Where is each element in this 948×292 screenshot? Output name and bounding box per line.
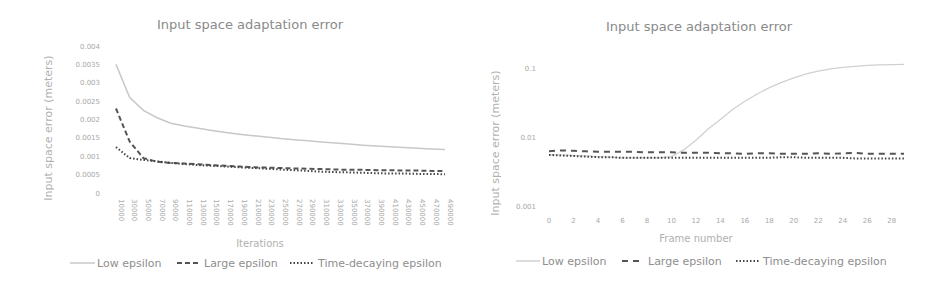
y-tick-label: 0.0005 <box>76 171 101 179</box>
x-tick-label: 6 <box>620 217 625 225</box>
x-tick-label: 28 <box>887 217 896 225</box>
x-axis-label: Frame number <box>659 233 733 244</box>
chart-title: Input space adaptation error <box>157 17 344 32</box>
chart-title: Input space adaptation error <box>606 19 793 34</box>
x-tick-label: 14 <box>716 217 725 225</box>
x-tick-label: 0 <box>547 217 551 225</box>
y-tick-label: 0 <box>96 190 100 198</box>
x-tick-label: 490000 <box>446 199 454 226</box>
chart-right-svg: Input space adaptation error Input space… <box>474 0 948 292</box>
x-tick-label: 2 <box>571 217 575 225</box>
x-tick-label: 22 <box>814 217 823 225</box>
x-tick-label: 110000 <box>185 199 193 226</box>
x-tick-label: 24 <box>838 217 847 225</box>
x-axis-ticks: 1000030000500007000090000110000130000150… <box>117 199 454 226</box>
x-tick-label: 170000 <box>226 199 234 226</box>
x-tick-label: 70000 <box>158 199 166 221</box>
x-tick-label: 270000 <box>295 199 303 226</box>
x-tick-label: 30000 <box>130 199 138 221</box>
chart-left: Input space adaptation error Input space… <box>0 0 474 292</box>
x-tick-label: 150000 <box>212 199 220 226</box>
x-tick-label: 430000 <box>404 199 412 226</box>
x-axis-label: Iterations <box>236 238 284 249</box>
x-tick-label: 90000 <box>171 199 179 221</box>
series-line <box>549 64 904 158</box>
x-tick-label: 8 <box>645 217 649 225</box>
y-axis-ticks: 00.00050.0010.00150.0020.00250.0030.0035… <box>76 43 101 198</box>
legend-label-low: Low epsilon <box>97 257 161 270</box>
x-tick-label: 26 <box>863 217 872 225</box>
series-line <box>549 150 904 153</box>
plot-area <box>116 64 445 174</box>
x-tick-label: 390000 <box>377 199 385 226</box>
y-tick-label: 0.01 <box>520 134 536 142</box>
x-tick-label: 20 <box>789 217 798 225</box>
legend-label-low: Low epsilon <box>542 255 606 268</box>
series-line <box>116 147 445 174</box>
chart-left-svg: Input space adaptation error Input space… <box>0 0 474 292</box>
y-tick-label: 0.003 <box>80 79 100 87</box>
plot-area <box>549 64 904 158</box>
y-axis-label: Input space error (meters) <box>489 70 502 215</box>
x-tick-label: 210000 <box>254 199 262 226</box>
y-tick-label: 0.1 <box>525 65 536 73</box>
y-axis-label: Input space error (meters) <box>42 55 55 200</box>
x-tick-label: 10 <box>667 217 676 225</box>
y-tick-label: 0.0025 <box>76 98 101 106</box>
x-tick-label: 350000 <box>350 199 358 226</box>
x-tick-label: 250000 <box>281 199 289 226</box>
y-axis-ticks: 0.0010.010.1 <box>516 65 536 211</box>
x-tick-label: 450000 <box>418 199 426 226</box>
legend-label-large: Large epsilon <box>204 257 278 270</box>
chart-right: Input space adaptation error Input space… <box>474 0 948 292</box>
x-tick-label: 370000 <box>363 199 371 226</box>
x-tick-label: 190000 <box>240 199 248 226</box>
x-tick-label: 10000 <box>117 199 125 221</box>
legend-label-decay: Time-decaying epsilon <box>762 255 887 268</box>
x-tick-label: 130000 <box>199 199 207 226</box>
y-tick-label: 0.001 <box>80 153 100 161</box>
x-tick-label: 16 <box>740 217 749 225</box>
x-tick-label: 290000 <box>308 199 316 226</box>
y-tick-label: 0.0035 <box>76 61 101 69</box>
y-tick-label: 0.0015 <box>76 134 101 142</box>
legend: Low epsilon Large epsilon Time-decaying … <box>516 255 887 268</box>
x-tick-label: 470000 <box>432 199 440 226</box>
x-tick-label: 18 <box>765 217 774 225</box>
legend-label-large: Large epsilon <box>648 255 722 268</box>
x-tick-label: 12 <box>691 217 700 225</box>
x-tick-label: 330000 <box>336 199 344 226</box>
x-tick-label: 50000 <box>144 199 152 221</box>
series-line <box>116 64 445 149</box>
x-axis-ticks: 0246810121416182022242628 <box>547 217 896 225</box>
series-line <box>549 155 904 159</box>
x-tick-label: 4 <box>596 217 601 225</box>
y-tick-label: 0.001 <box>516 203 536 211</box>
x-tick-label: 230000 <box>267 199 275 226</box>
y-tick-label: 0.004 <box>80 43 101 51</box>
legend: Low epsilon Large epsilon Time-decaying … <box>70 257 442 270</box>
x-tick-label: 410000 <box>391 199 399 226</box>
x-tick-label: 310000 <box>322 199 330 226</box>
y-tick-label: 0.002 <box>80 116 100 124</box>
legend-label-decay: Time-decaying epsilon <box>317 257 442 270</box>
